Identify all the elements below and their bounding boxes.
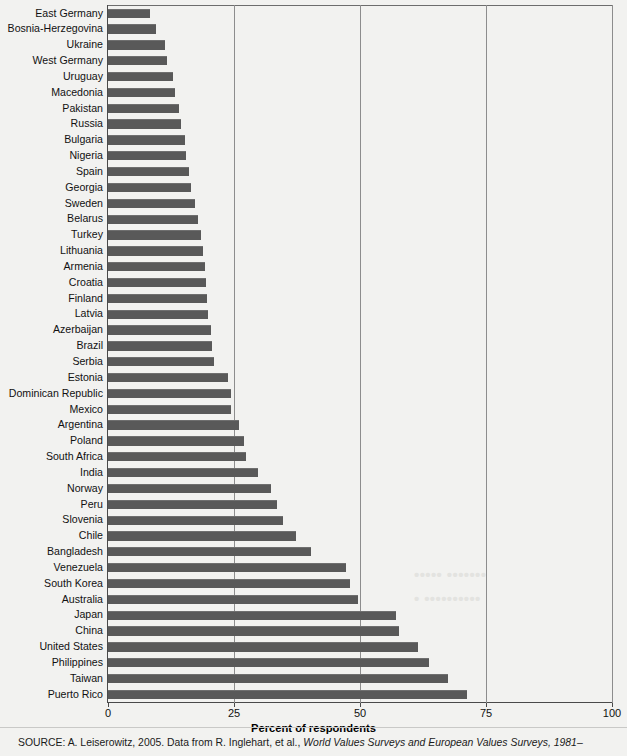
bar — [108, 24, 156, 33]
category-label: Latvia — [0, 307, 103, 320]
bar — [108, 104, 179, 113]
bar — [108, 72, 173, 81]
bar-row: Azerbaijan — [0, 323, 627, 339]
category-label: Uruguay — [0, 70, 103, 83]
category-label: Armenia — [0, 260, 103, 273]
bar-row: United States — [0, 640, 627, 656]
category-label: Norway — [0, 482, 103, 495]
category-label: Brazil — [0, 339, 103, 352]
bar — [108, 690, 467, 699]
bar-row: India — [0, 465, 627, 481]
category-label: Nigeria — [0, 149, 103, 162]
bar — [108, 325, 211, 334]
category-label: India — [0, 466, 103, 479]
bar-row: Turkey — [0, 228, 627, 244]
category-label: Bangladesh — [0, 545, 103, 558]
category-label: Finland — [0, 292, 103, 305]
chart-figure: ••••• ••••••• • •••••••••• East GermanyB… — [0, 0, 627, 756]
x-tick-label-100: 100 — [603, 707, 621, 720]
bar — [108, 405, 231, 414]
bar-row: Argentina — [0, 418, 627, 434]
bar — [108, 611, 396, 620]
category-label: Puerto Rico — [0, 688, 103, 701]
bar — [108, 468, 258, 477]
bar — [108, 262, 205, 271]
category-label: Mexico — [0, 403, 103, 416]
bar — [108, 167, 189, 176]
bar — [108, 341, 212, 350]
bar-row: Norway — [0, 481, 627, 497]
bar-row: Finland — [0, 291, 627, 307]
bar — [108, 389, 231, 398]
source-citation-title: World Values Surveys and European Values… — [303, 737, 582, 748]
category-label: Spain — [0, 165, 103, 178]
bar — [108, 310, 208, 319]
category-label: Sweden — [0, 197, 103, 210]
bar-row: Lithuania — [0, 244, 627, 260]
bar — [108, 119, 181, 128]
bar-row: Pakistan — [0, 101, 627, 117]
bar — [108, 9, 150, 18]
category-label: Japan — [0, 608, 103, 621]
bar — [108, 151, 186, 160]
bar-row: Bosnia-Herzegovina — [0, 22, 627, 38]
bar — [108, 595, 358, 604]
category-label: China — [0, 624, 103, 637]
bar-row: Mexico — [0, 402, 627, 418]
bar-rows: East GermanyBosnia-HerzegovinaUkraineWes… — [0, 6, 627, 703]
bar — [108, 40, 165, 49]
category-label: Macedonia — [0, 86, 103, 99]
bar-row: Japan — [0, 608, 627, 624]
bar-row: Puerto Rico — [0, 687, 627, 703]
bar-row: Venezuela — [0, 560, 627, 576]
bar-row: Croatia — [0, 275, 627, 291]
bar-row: Armenia — [0, 259, 627, 275]
bar — [108, 674, 448, 683]
category-label: Bosnia-Herzegovina — [0, 22, 103, 35]
bar-row: Sweden — [0, 196, 627, 212]
bar-row: Australia — [0, 592, 627, 608]
bar-row: Uruguay — [0, 69, 627, 85]
category-label: United States — [0, 640, 103, 653]
bar — [108, 531, 296, 540]
bar-row: West Germany — [0, 54, 627, 70]
bar-row: Poland — [0, 434, 627, 450]
category-label: Bulgaria — [0, 133, 103, 146]
category-label: Poland — [0, 434, 103, 447]
bar — [108, 278, 206, 287]
x-tick-label-75: 75 — [480, 707, 492, 720]
bar — [108, 516, 283, 525]
bar — [108, 484, 271, 493]
bar-row: Bangladesh — [0, 545, 627, 561]
bar-row: Macedonia — [0, 85, 627, 101]
bar-row: Russia — [0, 117, 627, 133]
category-label: Turkey — [0, 228, 103, 241]
bar-row: South Africa — [0, 450, 627, 466]
bar-row: Brazil — [0, 339, 627, 355]
category-label: Peru — [0, 498, 103, 511]
bar-row: Dominican Republic — [0, 386, 627, 402]
category-label: East Germany — [0, 7, 103, 20]
category-label: Taiwan — [0, 672, 103, 685]
bar — [108, 215, 198, 224]
bar — [108, 135, 185, 144]
bar — [108, 563, 346, 572]
source-prefix: SOURCE: A. Leiserowitz, 2005. Data from … — [18, 737, 303, 748]
source-note: SOURCE: A. Leiserowitz, 2005. Data from … — [18, 736, 618, 750]
x-tick-label-50: 50 — [354, 707, 366, 720]
bar — [108, 183, 191, 192]
bar-row: Estonia — [0, 370, 627, 386]
bar — [108, 642, 418, 651]
category-label: Pakistan — [0, 102, 103, 115]
source-divider — [0, 727, 627, 728]
bar — [108, 199, 195, 208]
bar — [108, 294, 207, 303]
category-label: Dominican Republic — [0, 387, 103, 400]
bar — [108, 579, 350, 588]
x-axis-label: Percent of respondents — [0, 722, 627, 734]
bar-row: East Germany — [0, 6, 627, 22]
x-tick-label-0: 0 — [105, 707, 111, 720]
category-label: Belarus — [0, 212, 103, 225]
bar-row: Nigeria — [0, 149, 627, 165]
category-label: South Korea — [0, 577, 103, 590]
